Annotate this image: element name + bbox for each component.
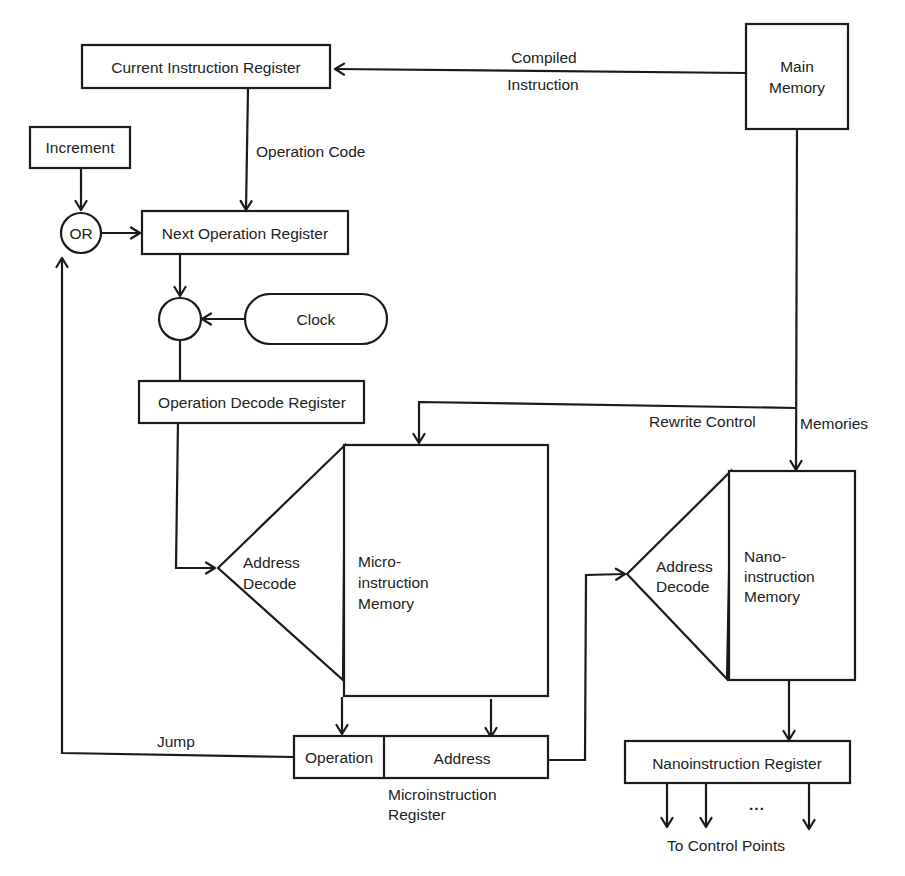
edge-address-to-nano-decode <box>547 574 625 760</box>
nano-address-decode: Address Decode <box>627 471 731 679</box>
main-memory-label-1: Main <box>780 58 814 75</box>
compiled-instruction-label-1: Compiled <box>511 49 576 66</box>
current-instruction-register: Current Instruction Register <box>82 45 330 88</box>
edge-odr-to-micro-decode <box>176 420 215 568</box>
main-memory: Main Memory <box>746 24 848 129</box>
clock-gate <box>159 298 201 340</box>
memories-label: Memories <box>800 415 868 432</box>
next-operation-register-label: Next Operation Register <box>162 225 328 242</box>
edge-compiled-instruction <box>335 69 746 73</box>
operation-decode-register-label: Operation Decode Register <box>158 394 346 411</box>
nanoinstruction-memory-label-2: instruction <box>744 568 815 585</box>
edge-memories-trunk <box>796 129 797 470</box>
clock: Clock <box>245 294 387 344</box>
address-field-label: Address <box>434 750 491 767</box>
nanoinstruction-memory: Nano- instruction Memory <box>729 471 855 680</box>
increment-box: Increment <box>30 127 130 168</box>
main-memory-label-2: Memory <box>769 79 825 96</box>
current-instruction-register-label: Current Instruction Register <box>111 59 301 76</box>
microinstruction-memory-label-1: Micro- <box>358 553 401 570</box>
compiled-instruction-label-2: Instruction <box>507 76 579 93</box>
or-gate-label: OR <box>69 225 92 242</box>
micro-address-decode-label-1: Address <box>243 554 300 571</box>
microinstruction-register-caption-1: Microinstruction <box>388 786 497 803</box>
micro-address-decode-label-2: Decode <box>243 575 296 592</box>
microinstruction-memory: Micro- instruction Memory <box>344 445 548 696</box>
nano-address-decode-label-2: Decode <box>656 578 709 595</box>
microinstruction-register: Operation Address Microinstruction Regis… <box>294 736 548 823</box>
micro-address-decode: Address Decode <box>218 445 345 680</box>
microinstruction-memory-label-2: instruction <box>358 574 429 591</box>
nanoinstruction-memory-label-3: Memory <box>744 588 800 605</box>
nano-address-decode-label-1: Address <box>656 558 713 575</box>
ellipsis-label: ... <box>749 796 765 813</box>
operation-field-label: Operation <box>305 749 373 766</box>
microinstruction-register-caption-2: Register <box>388 806 446 823</box>
nanoinstruction-register-label: Nanoinstruction Register <box>652 755 822 772</box>
control-unit-diagram: Current Instruction Register Main Memory… <box>0 0 905 876</box>
increment-label: Increment <box>46 139 116 156</box>
nanoinstruction-memory-label-1: Nano- <box>744 548 786 565</box>
operation-decode-register: Operation Decode Register <box>139 381 364 423</box>
nanoinstruction-register: Nanoinstruction Register <box>625 741 850 783</box>
operation-code-label: Operation Code <box>256 143 365 160</box>
to-control-points-label: To Control Points <box>667 837 785 854</box>
edge-operation-code <box>246 89 248 210</box>
rewrite-control-label: Rewrite Control <box>649 413 756 430</box>
microinstruction-memory-label-3: Memory <box>358 595 414 612</box>
jump-label: Jump <box>157 733 195 750</box>
next-operation-register: Next Operation Register <box>142 211 348 254</box>
or-gate: OR <box>61 213 101 253</box>
clock-label: Clock <box>297 311 336 328</box>
